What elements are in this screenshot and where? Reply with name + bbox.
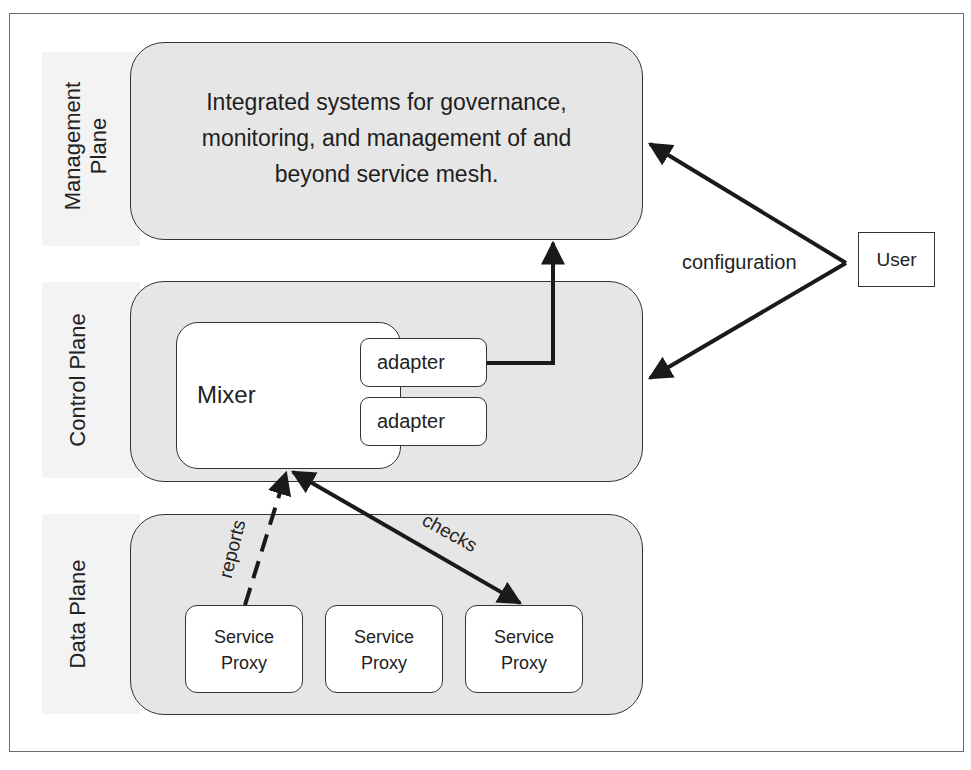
config-to-control-arrow — [650, 263, 846, 378]
arrows-layer — [0, 0, 971, 770]
adapter-to-management-arrow — [487, 243, 553, 363]
config-to-management-arrow — [650, 144, 846, 263]
reports-arrow — [245, 473, 286, 605]
configuration-label: configuration — [682, 251, 797, 274]
checks-arrow — [293, 472, 520, 603]
